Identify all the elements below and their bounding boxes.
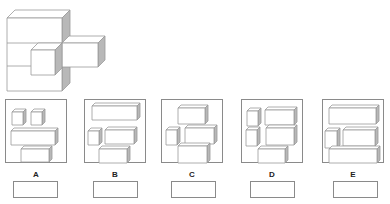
cube-assembly-drawing <box>0 0 120 95</box>
option-panel-e[interactable] <box>322 99 384 163</box>
piece-1-side-face <box>205 105 208 124</box>
piece-3-front-face <box>185 128 214 144</box>
option-pieces-drawing <box>85 100 147 164</box>
piece-1-front-face <box>178 108 205 124</box>
piece-1-top-face <box>178 105 208 108</box>
piece-2-front-face <box>31 112 42 125</box>
piece-3-top-face <box>105 127 137 130</box>
piece-1-top-face <box>92 103 140 106</box>
answer-box-c[interactable] <box>171 181 216 198</box>
piece-4-top-face <box>266 125 297 128</box>
piece-3-front-face <box>11 131 55 145</box>
option-panel-b[interactable] <box>84 99 146 163</box>
piece-1-top-face <box>329 105 379 108</box>
piece-1-side-face <box>376 105 379 124</box>
piece-5-front-face <box>258 149 285 163</box>
piece-1-front-face <box>247 111 258 126</box>
piece-4-side-face <box>127 146 130 163</box>
option-pieces-drawing <box>6 100 68 164</box>
piece-1-side-face <box>137 103 140 120</box>
piece-4-side-face <box>294 125 297 145</box>
piece-1-side-face <box>23 109 26 125</box>
question-figure <box>0 0 120 95</box>
option-pieces-drawing <box>242 100 304 164</box>
piece-2-side-face <box>337 128 340 148</box>
piece-1-front-face <box>12 112 23 125</box>
piece-2-side-face <box>177 127 180 145</box>
piece-2-side-face <box>42 109 45 125</box>
right-bar-front-face <box>62 43 98 67</box>
piece-4-side-face <box>207 143 210 163</box>
piece-2-front-face <box>325 131 337 148</box>
option-label-e: E <box>322 170 384 180</box>
piece-3-front-face <box>246 130 257 146</box>
front-cube-front-face <box>31 50 55 75</box>
piece-3-side-face <box>257 127 260 146</box>
option-label-c: C <box>161 170 223 180</box>
piece-3-side-face <box>55 128 58 145</box>
piece-4-front-face <box>178 146 207 163</box>
piece-4-top-face <box>178 143 210 146</box>
piece-2-side-face <box>294 107 297 125</box>
option-pieces-drawing <box>162 100 224 164</box>
piece-2-front-face <box>88 131 99 145</box>
answer-box-e[interactable] <box>333 181 378 198</box>
piece-4-top-face <box>99 146 130 149</box>
answer-box-d[interactable] <box>250 181 295 198</box>
option-panel-d[interactable] <box>241 99 303 163</box>
piece-4-front-face <box>329 149 377 163</box>
option-label-b: B <box>84 170 146 180</box>
piece-3-top-face <box>185 125 217 128</box>
option-panel-c[interactable] <box>161 99 223 163</box>
main-block-top-face <box>7 10 70 18</box>
piece-1-front-face <box>329 108 376 124</box>
option-panel-a[interactable] <box>5 99 67 163</box>
piece-5-top-face <box>258 146 288 149</box>
piece-3-top-face <box>11 128 58 131</box>
piece-4-side-face <box>49 146 52 162</box>
piece-3-side-face <box>375 127 378 146</box>
piece-2-side-face <box>99 128 102 145</box>
piece-1-front-face <box>92 106 137 120</box>
piece-2-front-face <box>166 130 177 145</box>
piece-2-front-face <box>265 110 294 125</box>
piece-2-top-face <box>265 107 297 110</box>
option-label-a: A <box>5 170 67 180</box>
piece-3-top-face <box>343 127 378 130</box>
answer-box-a[interactable] <box>13 181 58 198</box>
piece-4-front-face <box>21 149 49 162</box>
piece-4-top-face <box>329 146 380 149</box>
option-label-d: D <box>241 170 303 180</box>
piece-4-side-face <box>377 146 380 163</box>
piece-3-side-face <box>134 127 137 144</box>
piece-4-front-face <box>266 128 294 145</box>
piece-3-side-face <box>214 125 217 144</box>
piece-1-side-face <box>258 108 261 126</box>
piece-3-front-face <box>343 130 375 146</box>
piece-4-front-face <box>99 149 127 163</box>
answer-box-b[interactable] <box>93 181 138 198</box>
piece-5-side-face <box>285 146 288 163</box>
piece-3-front-face <box>105 130 134 144</box>
option-pieces-drawing <box>323 100 385 164</box>
piece-4-top-face <box>21 146 52 149</box>
